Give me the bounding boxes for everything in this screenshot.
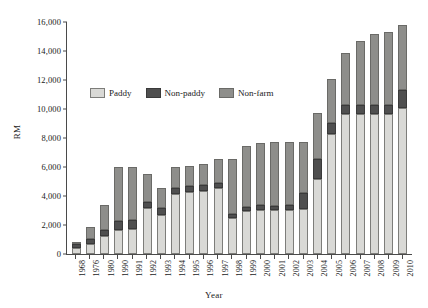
bar-series-group xyxy=(67,22,412,254)
x-axis-tick-mark xyxy=(360,255,361,259)
legend-item[interactable]: Non-paddy xyxy=(146,88,206,98)
bar-segment-non-paddy xyxy=(384,105,393,114)
bar-column xyxy=(154,22,168,254)
bar-column xyxy=(69,22,83,254)
non-farm-swatch xyxy=(219,88,234,98)
bar-segment-paddy xyxy=(86,244,95,254)
legend-item[interactable]: Non-farm xyxy=(219,88,274,98)
bar-column xyxy=(282,22,296,254)
bar-segment-non-farm xyxy=(370,34,379,105)
stacked-bar xyxy=(384,32,393,254)
x-axis-label-cell: 1999 xyxy=(239,260,253,290)
x-axis-tick-mark xyxy=(146,255,147,259)
bar-segment-non-farm xyxy=(256,143,265,204)
bar-segment-non-farm xyxy=(228,159,237,214)
x-axis-tick-mark xyxy=(331,255,332,259)
x-axis-label-cell: 2002 xyxy=(282,260,296,290)
x-axis-label-cell: 2001 xyxy=(268,260,282,290)
x-axis-tick-mark xyxy=(402,255,403,259)
stacked-bar xyxy=(199,164,208,254)
bar-column xyxy=(97,22,111,254)
chart-legend: PaddyNon-paddyNon-farm xyxy=(90,88,274,98)
bar-segment-non-paddy xyxy=(327,123,336,134)
plot-area: 16,00014,00012,00010,0008,0006,0004,0002… xyxy=(66,22,412,255)
stacked-bar xyxy=(86,227,95,254)
y-axis-title: RM xyxy=(12,125,22,140)
bar-segment-paddy xyxy=(270,210,279,254)
bar-column xyxy=(126,22,140,254)
bar-segment-non-paddy xyxy=(356,105,365,114)
bar-segment-non-farm xyxy=(171,167,180,188)
stacked-bar xyxy=(214,159,223,254)
x-axis-tick-mark xyxy=(217,255,218,259)
non-paddy-swatch xyxy=(146,88,161,98)
x-axis-tick-mark xyxy=(117,255,118,259)
bar-segment-paddy xyxy=(313,179,322,254)
stacked-bar-chart: RM 16,00014,00012,00010,0008,0006,0004,0… xyxy=(0,0,428,308)
bar-segment-paddy xyxy=(100,236,109,254)
x-axis-tick-mark xyxy=(203,255,204,259)
bar-segment-non-farm xyxy=(270,142,279,206)
stacked-bar xyxy=(143,174,152,254)
stacked-bar xyxy=(114,167,123,254)
stacked-bar xyxy=(327,79,336,254)
bar-segment-paddy xyxy=(185,192,194,254)
bar-segment-non-farm xyxy=(327,79,336,123)
x-axis-tick-labels: 1968197619801990199119921993199419951996… xyxy=(66,260,412,290)
x-axis-label-cell: 2010 xyxy=(396,260,410,290)
x-axis-tick-mark xyxy=(374,255,375,259)
x-axis-label-cell: 2007 xyxy=(353,260,367,290)
bar-column xyxy=(239,22,253,254)
bar-segment-paddy xyxy=(242,211,251,254)
x-axis-label-cell: 1994 xyxy=(168,260,182,290)
bar-column xyxy=(296,22,310,254)
bar-column xyxy=(268,22,282,254)
bar-segment-non-farm xyxy=(157,188,166,208)
x-axis-label-cell: 1997 xyxy=(211,260,225,290)
stacked-bar xyxy=(356,41,365,254)
bar-column xyxy=(140,22,154,254)
bar-segment-non-farm xyxy=(185,166,194,186)
bar-segment-paddy xyxy=(285,210,294,254)
bar-segment-paddy xyxy=(327,134,336,254)
bar-column xyxy=(396,22,410,254)
stacked-bar xyxy=(128,167,137,254)
bar-segment-paddy xyxy=(214,188,223,254)
bar-segment-non-farm xyxy=(128,167,137,220)
bar-segment-non-paddy xyxy=(299,193,308,209)
bar-column xyxy=(381,22,395,254)
bar-segment-paddy xyxy=(384,114,393,254)
x-axis-tick-mark xyxy=(174,255,175,259)
bar-segment-paddy xyxy=(157,215,166,254)
x-axis-label-cell: 1998 xyxy=(225,260,239,290)
legend-label: Non-paddy xyxy=(165,88,206,98)
bar-segment-non-farm xyxy=(341,53,350,105)
stacked-bar xyxy=(285,142,294,254)
bar-column xyxy=(112,22,126,254)
bar-segment-non-farm xyxy=(398,25,407,91)
bar-column xyxy=(325,22,339,254)
x-axis-label-cell: 2003 xyxy=(296,260,310,290)
x-axis-title: Year xyxy=(0,290,428,300)
bar-segment-paddy xyxy=(114,230,123,254)
stacked-bar xyxy=(157,188,166,254)
x-axis-label-cell: 1991 xyxy=(125,260,139,290)
stacked-bar xyxy=(256,143,265,254)
bar-segment-non-farm xyxy=(299,142,308,193)
bar-segment-paddy xyxy=(370,114,379,254)
stacked-bar xyxy=(100,205,109,255)
x-axis-tick-mark xyxy=(317,255,318,259)
bar-column xyxy=(367,22,381,254)
bar-column xyxy=(225,22,239,254)
x-axis-tick-mark xyxy=(132,255,133,259)
x-axis-label-cell: 2006 xyxy=(339,260,353,290)
x-axis-label-cell: 2005 xyxy=(325,260,339,290)
bar-segment-non-paddy xyxy=(398,90,407,108)
bar-segment-non-paddy xyxy=(157,208,166,215)
bar-segment-paddy xyxy=(228,218,237,254)
bar-segment-paddy xyxy=(341,114,350,254)
bar-segment-non-farm xyxy=(285,142,294,205)
stacked-bar xyxy=(398,25,407,254)
bar-segment-paddy xyxy=(143,208,152,254)
legend-item[interactable]: Paddy xyxy=(90,88,132,98)
